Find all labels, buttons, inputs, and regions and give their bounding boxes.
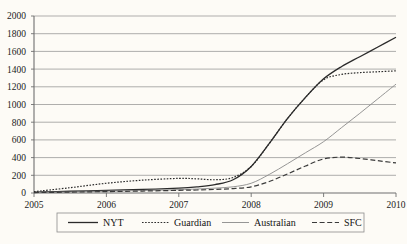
y-tick-label: 2000 — [7, 11, 26, 21]
series-line-australian — [34, 84, 396, 192]
line-chart: 0200400600800100012001400160018002000 20… — [0, 0, 407, 244]
chart-legend: NYTGuardianAustralianSFC — [57, 213, 364, 232]
y-tick-label: 1800 — [7, 29, 26, 39]
chart-page: 0200400600800100012001400160018002000 20… — [0, 0, 407, 244]
y-tick-label: 400 — [12, 153, 27, 163]
x-tick-label: 2005 — [25, 200, 44, 210]
y-tick-label: 800 — [12, 118, 27, 128]
series-line-nyt — [34, 37, 396, 192]
series-line-guardian — [34, 71, 396, 192]
y-axis-tick-labels: 0200400600800100012001400160018002000 — [7, 11, 26, 198]
y-tick-label: 600 — [12, 135, 27, 145]
x-tick-label: 2009 — [314, 200, 333, 210]
gridlines — [34, 16, 396, 175]
legend-label-guardian[interactable]: Guardian — [174, 217, 211, 228]
legend-label-australian[interactable]: Australian — [254, 217, 296, 228]
y-tick-label: 1400 — [7, 65, 26, 75]
x-axis-tick-labels: 200520062007200820092010 — [25, 200, 406, 210]
y-tick-label: 0 — [21, 188, 26, 198]
x-axis-tick-marks — [34, 193, 396, 197]
y-tick-label: 1000 — [7, 100, 26, 110]
x-tick-label: 2006 — [97, 200, 116, 210]
x-tick-label: 2008 — [242, 200, 261, 210]
legend-label-nyt[interactable]: NYT — [103, 217, 124, 228]
y-tick-label: 1600 — [7, 47, 26, 57]
legend-label-sfc[interactable]: SFC — [344, 217, 362, 228]
x-tick-label: 2010 — [387, 200, 406, 210]
series-line-sfc — [34, 157, 396, 192]
data-series — [34, 37, 396, 192]
y-tick-label: 200 — [12, 171, 27, 181]
x-tick-label: 2007 — [169, 200, 188, 210]
y-tick-label: 1200 — [7, 82, 26, 92]
